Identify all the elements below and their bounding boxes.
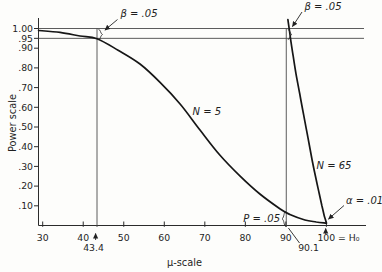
beta-left-label: β = .05 (120, 8, 158, 19)
x-tick-label: 70 (199, 232, 211, 243)
y-tick-label: .60 (18, 102, 33, 113)
n65-curve-label: N = 65 (317, 160, 352, 171)
x-axis-title: μ-scale (167, 257, 202, 268)
y-tick-label: .40 (18, 141, 33, 152)
figure-power-curves: 1.00.95.90.80.70.60.50.40.30.20.10 30405… (0, 0, 382, 272)
y-tick-label: .30 (18, 161, 33, 172)
x-tick-label: 100 = H₀ (317, 232, 359, 243)
alpha-label: α = .01 (346, 195, 382, 206)
mu-434-label: 43.4 (83, 242, 104, 253)
power-curve-n65 (288, 20, 327, 224)
y-tick-label: .70 (18, 82, 33, 93)
y-tick-label: .10 (18, 200, 33, 211)
x-axis-ticks: 30405060708090100 = H₀ (37, 222, 360, 244)
power-curve-n5 (39, 31, 327, 224)
x-tick-label: 50 (118, 232, 130, 243)
power-curves-chart: 1.00.95.90.80.70.60.50.40.30.20.10 30405… (0, 0, 382, 272)
alpha-arrow (329, 206, 345, 220)
x-tick-label: 90 (280, 232, 292, 243)
beta-right-arrow (293, 12, 303, 27)
x-tick-label: 60 (158, 232, 170, 243)
y-tick-label: .50 (18, 121, 33, 132)
y-tick-label: .90 (18, 42, 33, 53)
x-tick-label: 80 (239, 232, 251, 243)
beta-right-label: β = .05 (304, 1, 342, 12)
p-label: P = .05 (243, 213, 280, 224)
y-tick-label: .80 (18, 62, 33, 73)
mu-901-label: 90.1 (298, 242, 319, 253)
y-tick-label: .20 (18, 180, 33, 191)
reference-lines (39, 29, 365, 228)
n5-curve-label: N = 5 (193, 106, 222, 117)
x-tick-label: 30 (37, 232, 49, 243)
y-axis-title: Power scale (7, 94, 18, 152)
axes (39, 18, 367, 226)
